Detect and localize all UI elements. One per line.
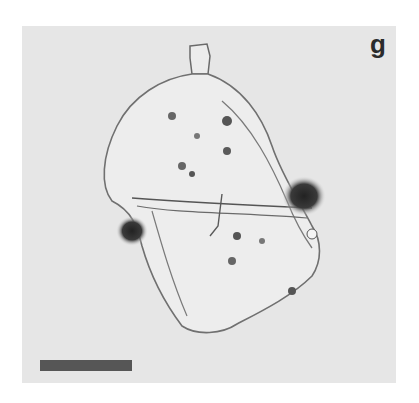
cyst-image (22, 26, 396, 383)
scale-bar (40, 360, 132, 371)
micrograph-panel: g (22, 26, 396, 383)
panel-label: g (370, 31, 386, 57)
